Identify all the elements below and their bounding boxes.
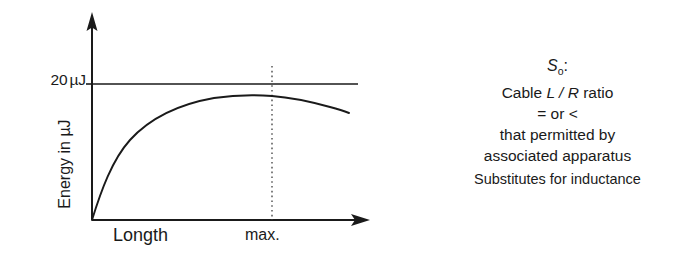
note-line-0-post: ratio [579, 84, 613, 101]
note-line-apparatus: associated apparatus [430, 145, 685, 166]
y-axis-tick-label-20uj: 20µJ [20, 71, 86, 89]
note-line-2-pre: that permitted by [500, 126, 615, 143]
note-heading-symbol: S [547, 57, 558, 74]
note-line-0-pre: Cable [502, 84, 547, 101]
x-axis-title: Longth [113, 225, 168, 246]
y-tick-value: 20 [50, 71, 67, 88]
note-heading: So: [430, 55, 685, 82]
y-tick-unit: µJ [70, 71, 86, 88]
x-axis-max-label: max. [245, 226, 280, 244]
annotation-note-block: So: Cable L / R ratio = or < that permit… [430, 55, 685, 190]
note-line-0-italic: L / R [546, 84, 578, 101]
note-line-cable-ratio: Cable L / R ratio [430, 82, 685, 103]
note-line-1-pre: = or < [537, 105, 578, 122]
note-heading-colon: : [564, 57, 568, 74]
note-line-permitted: that permitted by [430, 124, 685, 145]
y-axis-title: Energy in µJ [56, 94, 74, 234]
figure-root: 20µJ Energy in µJ Longth max. So: Cable … [0, 0, 699, 261]
energy-vs-length-chart: 20µJ Energy in µJ Longth max. [0, 0, 400, 261]
note-line-3-pre: associated apparatus [484, 147, 631, 164]
energy-curve-line [92, 95, 349, 220]
note-line-comparison: = or < [430, 103, 685, 124]
note-footer: Substitutes for inductance [430, 168, 685, 190]
